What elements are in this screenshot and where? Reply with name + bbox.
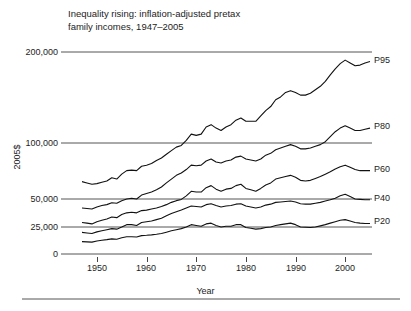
series-line-p80 [82, 126, 370, 209]
gridlines [61, 52, 372, 254]
chart-figure: Inequality rising: inflation-adjusted pr… [0, 0, 411, 311]
series-line-p60 [82, 165, 370, 224]
chart-canvas [0, 0, 411, 311]
series-label-p95: P95 [374, 55, 390, 65]
series-label-p60: P60 [374, 164, 390, 174]
series-label-p80: P80 [374, 121, 390, 131]
series-label-p20: P20 [374, 216, 390, 226]
series-line-p95 [82, 60, 370, 184]
series-line-p20 [82, 220, 370, 242]
series-curves [82, 60, 370, 242]
series-label-p40: P40 [374, 193, 390, 203]
x-tick-marks [98, 257, 346, 262]
